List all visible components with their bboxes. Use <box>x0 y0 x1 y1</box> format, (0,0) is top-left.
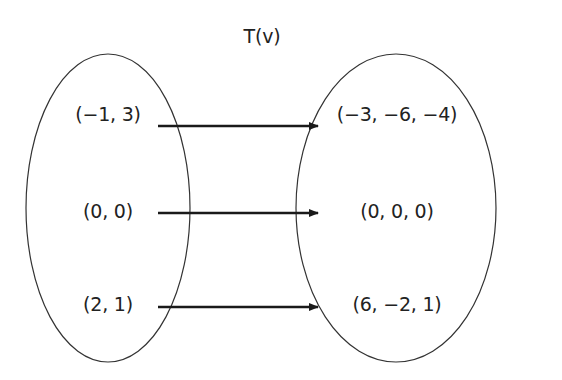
domain-item-3: (2, 1) <box>83 293 133 315</box>
codomain-item-2: (0, 0, 0) <box>360 200 433 222</box>
mapping-diagram <box>0 0 562 380</box>
codomain-item-3: (6, −2, 1) <box>352 293 441 315</box>
codomain-item-1: (−3, −6, −4) <box>337 103 458 125</box>
domain-item-2: (0, 0) <box>83 200 133 222</box>
domain-item-1: (−1, 3) <box>75 103 141 125</box>
diagram-title: T(v) <box>244 25 281 47</box>
